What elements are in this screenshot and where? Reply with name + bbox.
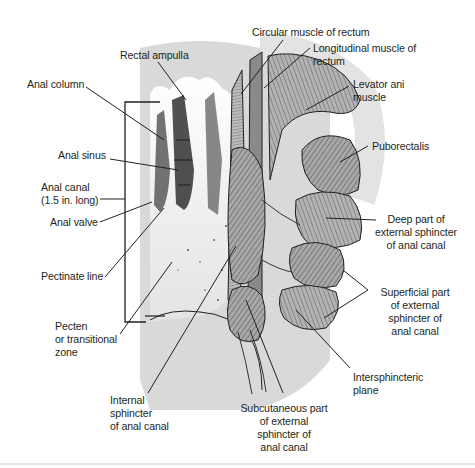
label-pectinate-line: Pectinate line xyxy=(41,270,103,283)
label-puborectalis: Puborectalis xyxy=(372,140,429,153)
label-rectal-ampulla: Rectal ampulla xyxy=(120,49,189,62)
anatomy-figure: Rectal ampulla Anal column Anal sinus An… xyxy=(0,0,475,468)
label-longitudinal-muscle: Longitudinal muscle of rectum xyxy=(313,42,416,68)
label-anal-sinus: Anal sinus xyxy=(58,149,106,162)
label-pecten: Pecten or transitional zone xyxy=(55,320,117,359)
label-anal-canal: Anal canal (1.5 in. long) xyxy=(41,181,99,207)
superficial-external-lobe-1 xyxy=(289,242,344,287)
deep-external-lobe xyxy=(295,192,361,248)
label-levator-ani: Levator ani muscle xyxy=(353,78,404,104)
label-anal-valve: Anal valve xyxy=(50,216,98,229)
internal-sphincter-mass xyxy=(228,148,265,285)
label-superficial-external: Superficial part of external sphincter o… xyxy=(372,286,458,338)
label-internal-sphincter: Internal sphincter of anal canal xyxy=(110,394,169,433)
label-anal-column: Anal column xyxy=(27,78,84,91)
bottom-divider xyxy=(0,463,475,465)
label-circular-muscle: Circular muscle of rectum xyxy=(252,26,370,39)
label-intersphincteric-plane: Intersphincteric plane xyxy=(353,371,423,397)
label-subcutaneous-external: Subcutaneous part of external sphincter … xyxy=(234,402,334,454)
label-deep-external: Deep part of external sphincter of anal … xyxy=(370,213,462,252)
